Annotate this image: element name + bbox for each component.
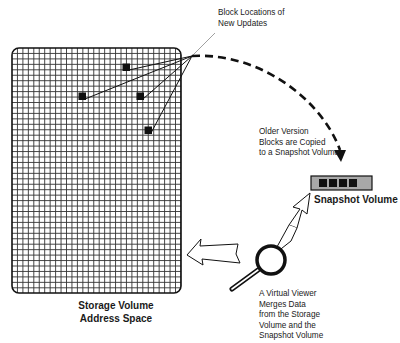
arrow-left-icon — [187, 239, 240, 265]
label-virtual-viewer: A Virtual Viewer Merges Data from the St… — [259, 289, 323, 342]
snapshot-volume-bar — [311, 176, 372, 190]
updated-block — [79, 93, 87, 101]
label-older-version: Older Version Blocks are Copied to a Sna… — [259, 127, 339, 159]
magnifier-icon — [232, 246, 285, 289]
snapshot-block — [329, 179, 337, 187]
updated-block — [123, 64, 131, 72]
snapshot-block — [339, 179, 347, 187]
label-snapshot-volume: Snapshot Volume — [314, 193, 398, 206]
label-block-locations: Block Locations of New Updates — [218, 8, 284, 29]
label-storage-volume: Storage Volume Address Space — [56, 299, 176, 325]
storage-volume-grid — [12, 48, 181, 293]
updated-block — [145, 127, 153, 135]
snapshot-block — [319, 179, 327, 187]
diagram-canvas — [0, 0, 400, 343]
updated-block — [137, 93, 145, 101]
snapshot-block — [349, 179, 357, 187]
